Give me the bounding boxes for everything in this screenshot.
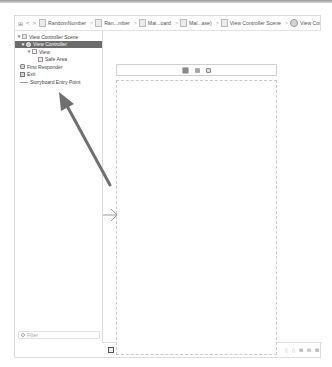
- breadcrumb-scene[interactable]: View Controller Scene: [221, 19, 281, 27]
- outline-filter-input[interactable]: Filter: [18, 331, 100, 339]
- storyboard-icon: [139, 19, 146, 27]
- breadcrumb-view-controller[interactable]: View Controller: [290, 19, 320, 27]
- storyboard-entry-point-arrow[interactable]: [103, 205, 119, 225]
- exit-icon[interactable]: [206, 68, 211, 73]
- outline-item-view[interactable]: ▼ View: [15, 48, 102, 56]
- scene-icon: [221, 19, 228, 27]
- outline-item-first-responder[interactable]: First Responder: [15, 63, 102, 71]
- back-icon[interactable]: <: [26, 20, 30, 26]
- resolve-issues-button[interactable]: ⊠: [315, 348, 319, 353]
- embed-in-stack-button[interactable]: ▯: [292, 348, 295, 353]
- scene-icon: [22, 34, 27, 39]
- folder-icon: [95, 19, 102, 27]
- toggle-outline-button[interactable]: [108, 347, 114, 353]
- outline-item-view-controller-scene[interactable]: ▼ View Controller Scene: [15, 33, 102, 41]
- breadcrumb-storyboard[interactable]: Mai...oard: [139, 19, 171, 27]
- grid-icon[interactable]: ⊞: [18, 20, 23, 27]
- add-constraints-button[interactable]: ⊟: [307, 348, 311, 353]
- filter-icon: [21, 333, 25, 337]
- scene-dock: [116, 64, 277, 76]
- breadcrumb-separator: >: [175, 20, 178, 26]
- outline-item-exit[interactable]: Exit: [15, 71, 102, 79]
- breadcrumb-separator: >: [285, 20, 288, 26]
- jump-bar: ⊞ < > RandomNumber > Ran...mber > Mai...…: [15, 16, 320, 31]
- safe-area-icon: [38, 57, 43, 62]
- outline-item-storyboard-entry-point[interactable]: Storyboard Entry Point: [15, 78, 102, 86]
- folder-icon: [39, 19, 46, 27]
- forward-icon[interactable]: >: [33, 20, 37, 26]
- breadcrumb-storyboard-base[interactable]: Mai...ase): [180, 19, 212, 27]
- exit-icon: [20, 72, 25, 77]
- outline-item-safe-area[interactable]: Safe Area: [15, 56, 102, 64]
- breadcrumb-project[interactable]: RandomNumber: [39, 19, 86, 27]
- view-controller-icon: [290, 19, 298, 27]
- entry-point-icon: [20, 82, 28, 83]
- outline-item-view-controller[interactable]: ▼ View Controller: [15, 41, 102, 49]
- breadcrumb-separator: >: [90, 20, 93, 26]
- first-responder-icon: [20, 64, 25, 69]
- view-controller-icon: [26, 42, 31, 47]
- breadcrumb-group[interactable]: Ran...mber: [95, 19, 130, 27]
- breadcrumb-separator: >: [134, 20, 137, 26]
- screen-top-shadow: [0, 0, 332, 3]
- update-frames-button[interactable]: ▯: [285, 348, 288, 353]
- breadcrumb-separator: >: [216, 20, 219, 26]
- storyboard-icon: [180, 19, 187, 27]
- filter-placeholder: Filter: [27, 332, 38, 338]
- view-icon: [32, 49, 37, 54]
- first-responder-icon[interactable]: [195, 68, 200, 73]
- view-controller-icon[interactable]: [182, 67, 189, 74]
- view-controller-scene-frame[interactable]: [116, 80, 277, 355]
- layout-controls: ▯ ▯ ⊞ ⊟ ⊠: [285, 348, 322, 353]
- align-button[interactable]: ⊞: [299, 348, 303, 353]
- document-outline: ▼ View Controller Scene ▼ View Controlle…: [15, 31, 103, 343]
